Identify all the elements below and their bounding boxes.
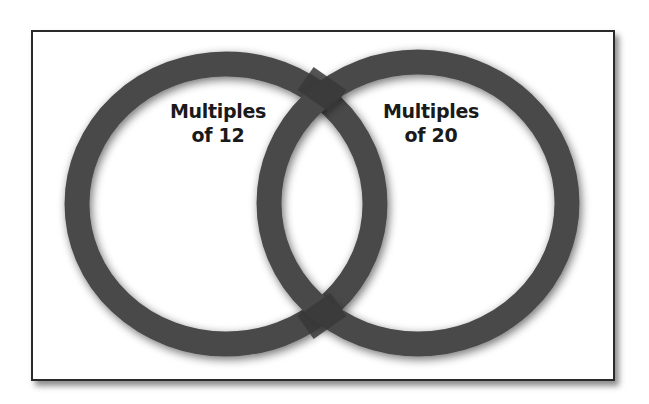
venn-diagram	[0, 0, 649, 404]
set-label-left-line1: Multiples	[158, 99, 278, 123]
set-label-multiples-of-12: Multiples of 12	[158, 99, 278, 147]
set-label-right-line1: Multiples	[370, 99, 492, 123]
set-label-right-line2: of 20	[370, 123, 492, 147]
set-label-left-line2: of 12	[158, 123, 278, 147]
set-label-multiples-of-20: Multiples of 20	[370, 99, 492, 147]
